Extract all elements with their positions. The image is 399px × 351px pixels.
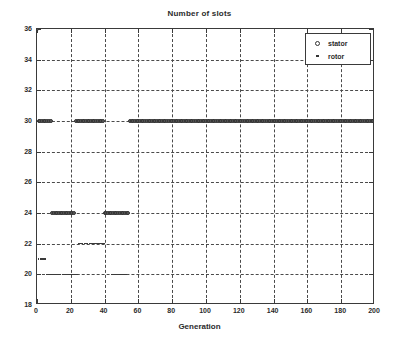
chart-title: Number of slots: [0, 9, 399, 18]
x-tick-label: 140: [267, 307, 279, 314]
tick-x: [138, 299, 139, 303]
gridline-horizontal: [37, 182, 373, 183]
gridline-vertical: [341, 29, 342, 303]
legend-label-rotor: rotor: [328, 53, 344, 60]
y-tick-label: 26: [24, 178, 32, 185]
tick-y: [37, 90, 41, 91]
tick-y-right: [369, 213, 373, 214]
tick-y-right: [369, 274, 373, 275]
tick-y: [37, 244, 41, 245]
tick-x: [172, 299, 173, 303]
y-tick-label: 22: [24, 239, 32, 246]
tick-y: [37, 182, 41, 183]
data-point-stator: [36, 28, 39, 31]
tick-x: [206, 299, 207, 303]
tick-y: [37, 152, 41, 153]
tick-x: [341, 299, 342, 303]
tick-y-right: [369, 152, 373, 153]
y-tick-label: 24: [24, 209, 32, 216]
tick-x-top: [172, 29, 173, 33]
tick-x-top: [105, 29, 106, 33]
tick-x-top: [240, 29, 241, 33]
legend-entry-rotor: rotor: [306, 49, 370, 63]
tick-x-top: [71, 29, 72, 33]
y-tick-label: 30: [24, 117, 32, 124]
data-point-rotor: [126, 274, 128, 276]
x-tick-label: 200: [368, 307, 380, 314]
data-point-stator: [126, 211, 130, 215]
tick-y: [37, 274, 41, 275]
tick-y: [37, 213, 41, 214]
y-tick-label: 28: [24, 147, 32, 154]
x-tick-label: 160: [301, 307, 313, 314]
legend-entry-stator: stator: [306, 36, 370, 50]
y-tick-label: 20: [24, 270, 32, 277]
x-tick-label: 120: [233, 307, 245, 314]
tick-x-top: [138, 29, 139, 33]
legend-dot-marker-icon: [306, 55, 328, 57]
tick-x-top: [206, 29, 207, 33]
y-tick-label: 34: [24, 55, 32, 62]
tick-y-right: [369, 244, 373, 245]
tick-x: [274, 299, 275, 303]
legend-label-stator: stator: [328, 40, 347, 47]
y-tick-label: 18: [24, 301, 32, 308]
data-point-rotor: [104, 243, 106, 245]
tick-x: [105, 299, 106, 303]
x-tick-label: 60: [133, 307, 141, 314]
x-tick-label: 20: [66, 307, 74, 314]
data-point-stator: [49, 119, 53, 123]
x-tick-label: 80: [167, 307, 175, 314]
tick-x-top: [274, 29, 275, 33]
gridline-vertical: [138, 29, 139, 303]
x-tick-label: 180: [334, 307, 346, 314]
gridline-vertical: [240, 29, 241, 303]
chart-legend: stator rotor: [305, 33, 371, 65]
tick-x: [37, 299, 38, 303]
x-axis-label: Generation: [0, 322, 399, 331]
gridline-horizontal: [37, 274, 373, 275]
gridline-vertical: [172, 29, 173, 303]
tick-x: [71, 299, 72, 303]
tick-y-right: [369, 29, 373, 30]
gridline-vertical: [307, 29, 308, 303]
tick-x: [307, 299, 308, 303]
data-point-stator: [373, 119, 374, 123]
gridline-horizontal: [37, 213, 373, 214]
data-point-stator: [72, 211, 76, 215]
tick-y: [37, 60, 41, 61]
gridline-horizontal: [37, 152, 373, 153]
gridline-vertical: [274, 29, 275, 303]
tick-x: [240, 299, 241, 303]
gridline-vertical: [206, 29, 207, 303]
y-tick-label: 36: [24, 25, 32, 32]
gridline-vertical: [71, 29, 72, 303]
tick-y-right: [369, 182, 373, 183]
gridline-horizontal: [37, 90, 373, 91]
y-tick-label: 32: [24, 86, 32, 93]
legend-circle-marker-icon: [306, 41, 328, 46]
data-point-stator: [101, 119, 105, 123]
x-tick-label: 0: [34, 307, 38, 314]
tick-y-right: [369, 90, 373, 91]
data-point-rotor: [77, 274, 79, 276]
gridline-vertical: [105, 29, 106, 303]
plot-area: [36, 28, 374, 304]
x-tick-label: 100: [199, 307, 211, 314]
x-tick-label: 40: [100, 307, 108, 314]
data-point-rotor: [45, 258, 47, 260]
chart-figure: Number of slots 020406080100120140160180…: [0, 0, 399, 351]
